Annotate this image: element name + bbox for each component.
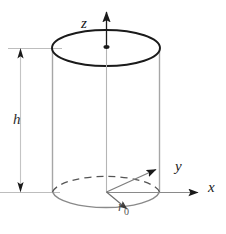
x-axis-label: x: [207, 179, 215, 195]
diagram-canvas: z y x h r 0: [0, 0, 226, 234]
y-axis-line: [107, 170, 157, 193]
z-axis-label: z: [80, 15, 87, 31]
cylinder-center-dot-icon: [104, 45, 110, 49]
radius-label-subscript: 0: [124, 206, 129, 217]
bottom-ellipse-front-solid: [53, 192, 160, 208]
y-axis-group: [107, 170, 157, 193]
cylinder-diagram: z y x h r 0: [0, 0, 226, 234]
z-axis-group: [104, 12, 110, 192]
height-dimension-label: h: [13, 111, 21, 127]
y-axis-label: y: [173, 158, 182, 174]
radius-dimension-label: r 0: [118, 199, 129, 217]
